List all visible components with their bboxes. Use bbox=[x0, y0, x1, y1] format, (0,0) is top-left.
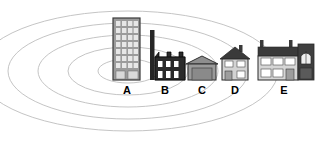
house-e-roof-main bbox=[258, 47, 298, 56]
building-a-tower-block bbox=[112, 17, 142, 81]
house-d-door bbox=[225, 71, 232, 80]
noise-contour-diagram: A B C D E bbox=[0, 0, 321, 145]
house-e-wing-lower bbox=[300, 68, 312, 79]
warehouse-door bbox=[192, 68, 212, 80]
building-b-factory bbox=[146, 30, 188, 81]
building-d-detached-house bbox=[218, 42, 254, 82]
label-building-d: D bbox=[225, 84, 245, 96]
factory-chimney bbox=[150, 30, 155, 80]
label-building-a: A bbox=[117, 84, 137, 96]
house-e-door bbox=[286, 69, 294, 80]
building-c-warehouse bbox=[185, 55, 221, 82]
label-building-c: C bbox=[192, 84, 212, 96]
building-e-terraced-houses bbox=[256, 38, 316, 82]
label-building-b: B bbox=[155, 84, 175, 96]
house-d-roof bbox=[220, 47, 250, 59]
house-e-windows-upper bbox=[261, 58, 295, 65]
warehouse-roof bbox=[186, 56, 218, 64]
label-building-e: E bbox=[274, 84, 294, 96]
